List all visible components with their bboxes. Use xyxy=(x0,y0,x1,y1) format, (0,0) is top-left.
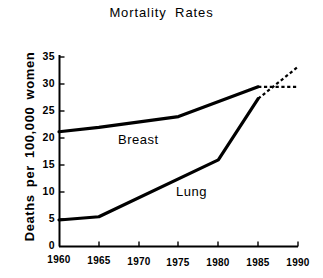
plot-area xyxy=(0,0,323,278)
series-line-lung xyxy=(59,99,258,220)
series-projection-lung xyxy=(258,67,298,99)
mortality-rates-chart: Mortality Rates Deaths per 100,000 women… xyxy=(0,0,323,278)
series-layer xyxy=(59,67,298,220)
series-line-breast xyxy=(59,87,258,132)
